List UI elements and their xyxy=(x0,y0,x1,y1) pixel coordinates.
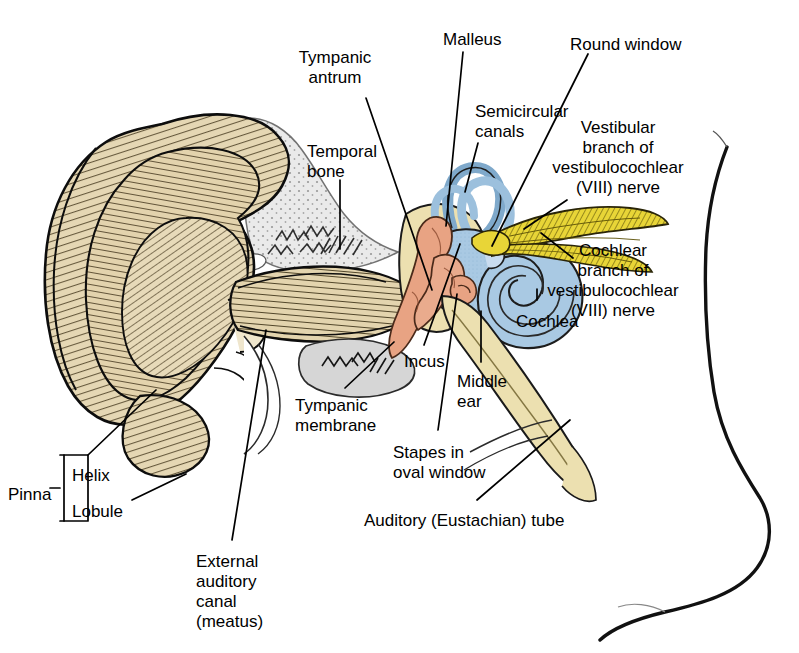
leader-lobule xyxy=(132,474,186,500)
label-temporal-bone: Temporal bone xyxy=(307,142,377,182)
ear-anatomy-diagram: Tympanic antrum Malleus Round window Tem… xyxy=(0,0,799,653)
label-helix: Helix xyxy=(72,466,110,486)
label-stapes-oval-window: Stapes in oval window xyxy=(393,443,486,483)
label-malleus: Malleus xyxy=(443,30,502,50)
label-incus: Incus xyxy=(404,352,445,372)
label-cochlea: Cochlea xyxy=(516,312,578,332)
label-round-window: Round window xyxy=(570,35,682,55)
label-lobule: Lobule xyxy=(72,502,123,522)
label-pinna: Pinna xyxy=(8,485,51,505)
label-middle-ear: Middle ear xyxy=(457,372,507,412)
label-auditory-eustachian-tube: Auditory (Eustachian) tube xyxy=(364,511,564,531)
label-vestibular-branch: Vestibular branch of vestibulocochlear (… xyxy=(538,118,698,198)
label-external-auditory-canal: External auditory canal (meatus) xyxy=(196,552,263,632)
label-tympanic-antrum: Tympanic antrum xyxy=(275,48,395,88)
ear-anatomy-illustration xyxy=(0,0,799,653)
label-tympanic-membrane: Tympanic membrane xyxy=(295,396,376,436)
label-cochlear-branch: Cochlear branch of vestibulocochlear (VI… xyxy=(533,241,693,321)
